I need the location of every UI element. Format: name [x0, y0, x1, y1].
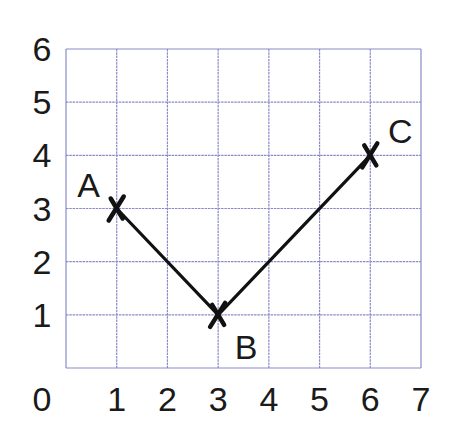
point-label-c: C [388, 112, 413, 150]
point-label-a: A [77, 166, 100, 204]
y-tick-label: 2 [33, 243, 52, 281]
y-tick-label: 4 [33, 136, 52, 174]
x-axis-ticks: 01234567 [33, 380, 431, 418]
y-tick-label: 1 [33, 296, 52, 334]
y-tick-label: 6 [33, 30, 52, 68]
x-tick-label: 7 [412, 380, 431, 418]
line-series [117, 155, 371, 315]
x-tick-label: 1 [107, 380, 126, 418]
x-tick-label: 4 [259, 380, 278, 418]
coordinate-grid-chart: 123456 01234567 ABC [0, 0, 457, 436]
x-tick-label: 5 [310, 380, 329, 418]
point-label-b: B [235, 328, 258, 366]
x-tick-label: 6 [361, 380, 380, 418]
x-tick-label: 0 [33, 380, 52, 418]
point-markers [109, 143, 378, 327]
y-axis-ticks: 123456 [33, 30, 52, 334]
point-labels: ABC [77, 112, 412, 366]
series-line [117, 155, 371, 315]
y-tick-label: 5 [33, 83, 52, 121]
y-tick-label: 3 [33, 190, 52, 228]
x-tick-label: 2 [158, 380, 177, 418]
x-tick-label: 3 [209, 380, 228, 418]
